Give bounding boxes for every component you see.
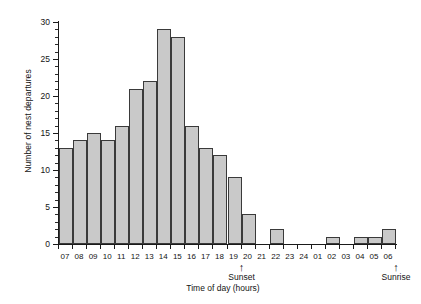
x-tick-16 <box>283 245 284 249</box>
x-tick-label-23: 23 <box>285 252 294 261</box>
bar-06 <box>382 229 396 244</box>
x-tick-21 <box>353 245 354 249</box>
x-tick-18 <box>311 245 312 249</box>
y-tick-25 <box>53 59 58 60</box>
x-tick-label-08: 08 <box>75 252 84 261</box>
y-tick-21 <box>55 89 58 90</box>
x-tick-label-19: 19 <box>229 252 238 261</box>
y-tick-15 <box>53 133 58 134</box>
y-tick-1 <box>55 237 58 238</box>
bar-08 <box>73 140 87 244</box>
x-tick-8 <box>170 245 171 249</box>
x-tick-15 <box>269 245 270 249</box>
bar-04 <box>354 237 368 244</box>
y-tick-11 <box>55 163 58 164</box>
x-tick-label-10: 10 <box>103 252 112 261</box>
y-tick-label-30: 30 <box>28 18 50 27</box>
y-tick-label-5: 5 <box>28 203 50 212</box>
bar-05 <box>368 237 382 244</box>
x-tick-label-18: 18 <box>215 252 224 261</box>
y-tick-label-10: 10 <box>28 166 50 175</box>
bar-10 <box>101 140 115 244</box>
x-tick-1 <box>72 245 73 249</box>
y-tick-24 <box>55 66 58 67</box>
bar-18 <box>213 155 227 244</box>
annotation-label-sunrise: Sunrise <box>382 272 411 283</box>
x-tick-6 <box>142 245 143 249</box>
x-tick-12 <box>227 245 228 249</box>
y-tick-19 <box>55 103 58 104</box>
bar-20 <box>242 214 256 244</box>
annotation-sunrise: ↑Sunrise <box>382 263 411 283</box>
bar-19 <box>228 177 242 244</box>
x-tick-13 <box>241 245 242 249</box>
annotation-label-sunset: Sunset <box>228 272 254 283</box>
y-tick-label-15: 15 <box>28 129 50 138</box>
y-tick-27 <box>55 44 58 45</box>
y-tick-12 <box>55 155 58 156</box>
x-tick-2 <box>86 245 87 249</box>
x-tick-label-12: 12 <box>131 252 140 261</box>
x-tick-10 <box>198 245 199 249</box>
y-tick-8 <box>55 185 58 186</box>
x-tick-label-05: 05 <box>369 252 378 261</box>
x-tick-17 <box>297 245 298 249</box>
bar-14 <box>157 29 171 244</box>
x-tick-label-20: 20 <box>243 252 252 261</box>
y-tick-label-20: 20 <box>28 92 50 101</box>
y-tick-26 <box>55 52 58 53</box>
x-tick-label-11: 11 <box>117 252 125 261</box>
y-axis-title: Number of nest departures <box>23 41 33 201</box>
x-tick-20 <box>339 245 340 249</box>
up-arrow-icon: ↑ <box>382 263 411 272</box>
x-tick-24 <box>395 245 396 249</box>
y-tick-2 <box>55 229 58 230</box>
y-tick-30 <box>53 22 58 23</box>
x-tick-label-17: 17 <box>201 252 210 261</box>
y-tick-20 <box>53 96 58 97</box>
x-tick-22 <box>367 245 368 249</box>
x-tick-5 <box>128 245 129 249</box>
x-axis-ticks <box>58 245 397 250</box>
plot-area <box>59 22 396 244</box>
x-tick-3 <box>100 245 101 249</box>
y-tick-7 <box>55 192 58 193</box>
y-tick-22 <box>55 81 58 82</box>
bar-09 <box>87 133 101 244</box>
bar-11 <box>115 126 129 244</box>
bar-12 <box>129 89 143 244</box>
annotation-sunset: ↑Sunset <box>228 263 254 283</box>
x-tick-label-21: 21 <box>257 252 266 261</box>
y-tick-9 <box>55 177 58 178</box>
y-tick-10 <box>53 170 58 171</box>
bar-16 <box>185 126 199 244</box>
y-tick-14 <box>55 140 58 141</box>
x-axis-title: Time of day (hours) <box>58 283 388 293</box>
x-tick-0 <box>58 245 59 249</box>
x-tick-label-15: 15 <box>173 252 182 261</box>
y-tick-23 <box>55 74 58 75</box>
x-tick-label-09: 09 <box>89 252 98 261</box>
histogram-figure: Number of nest departures 051015202530 0… <box>0 0 421 304</box>
x-tick-label-07: 07 <box>61 252 70 261</box>
y-tick-16 <box>55 126 58 127</box>
y-tick-28 <box>55 37 58 38</box>
y-tick-label-0: 0 <box>28 240 50 249</box>
bar-02 <box>326 237 340 244</box>
x-tick-label-06: 06 <box>384 252 393 261</box>
x-tick-7 <box>156 245 157 249</box>
y-tick-4 <box>55 214 58 215</box>
y-tick-5 <box>53 207 58 208</box>
y-tick-13 <box>55 148 58 149</box>
y-tick-3 <box>55 222 58 223</box>
y-tick-label-25: 25 <box>28 55 50 64</box>
y-tick-6 <box>55 200 58 201</box>
x-tick-label-14: 14 <box>159 252 168 261</box>
bar-13 <box>143 81 157 244</box>
bar-07 <box>59 148 73 244</box>
x-tick-label-13: 13 <box>145 252 154 261</box>
bar-15 <box>171 37 185 244</box>
x-tick-14 <box>255 245 256 249</box>
x-tick-label-02: 02 <box>327 252 336 261</box>
x-tick-label-16: 16 <box>187 252 196 261</box>
